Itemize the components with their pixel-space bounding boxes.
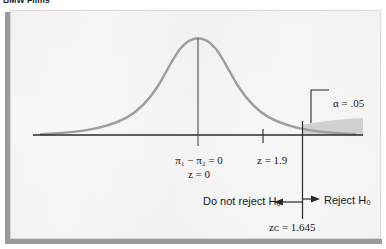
chart-panel: π₁ − π₂ = 0 z = 0 z = 1.9 α = .05 Do not… bbox=[10, 10, 381, 239]
figure-panel-frame: π₁ − π₂ = 0 z = 0 z = 1.9 α = .05 Do not… bbox=[5, 10, 383, 244]
figure-root: BMW Films bbox=[0, 0, 386, 249]
reject-label: Reject H₀ bbox=[324, 194, 371, 206]
figure-caption: BMW Films bbox=[3, 0, 50, 4]
alpha-leader-line bbox=[311, 90, 329, 123]
center-parameter-label: π₁ − π₂ = 0 bbox=[151, 154, 247, 166]
center-z-label: z = 0 bbox=[151, 168, 247, 180]
alpha-label: α = .05 bbox=[333, 97, 364, 109]
do-not-reject-label: Do not reject H₀ bbox=[203, 195, 281, 207]
critical-value-label: zᴄ = 1.645 bbox=[269, 221, 316, 233]
panel-shadow-bottom-edge bbox=[5, 239, 382, 244]
reject-arrow-head bbox=[311, 195, 320, 202]
observed-z-label: z = 1.9 bbox=[257, 154, 287, 166]
